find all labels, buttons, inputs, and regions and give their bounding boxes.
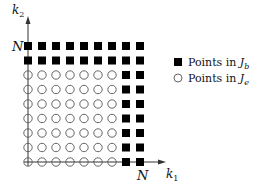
- legend-item-je: Points in Je: [174, 72, 249, 87]
- point-jb: [108, 42, 116, 50]
- point-je: [66, 100, 74, 108]
- point-jb: [24, 42, 32, 50]
- filled-square-icon: [174, 58, 182, 66]
- point-je: [52, 100, 60, 108]
- point-jb: [136, 42, 144, 50]
- point-jb: [94, 57, 102, 65]
- point-je: [94, 129, 102, 137]
- lattice-diagram: N N k2 k1 Points in Jb Points in Je: [0, 0, 264, 188]
- points: [24, 42, 144, 166]
- open-circle-icon: [174, 74, 182, 82]
- point-jb: [122, 100, 130, 108]
- point-je: [52, 143, 60, 151]
- point-je: [94, 100, 102, 108]
- point-je: [52, 85, 60, 93]
- point-jb: [24, 57, 32, 65]
- svg-text:Points in Jb: Points in Jb: [188, 56, 249, 71]
- point-jb: [66, 42, 74, 50]
- point-je: [94, 143, 102, 151]
- point-je: [66, 85, 74, 93]
- point-je: [108, 100, 116, 108]
- point-je: [66, 114, 74, 122]
- point-jb: [122, 144, 130, 152]
- point-je: [80, 143, 88, 151]
- point-jb: [136, 144, 144, 152]
- point-je: [66, 129, 74, 137]
- point-jb: [52, 42, 60, 50]
- x-axis-arrow-icon: [158, 160, 166, 165]
- point-je: [94, 71, 102, 79]
- point-je: [108, 114, 116, 122]
- y-axis-arrow-icon: [26, 16, 31, 24]
- point-jb: [38, 57, 46, 65]
- point-je: [38, 100, 46, 108]
- point-je: [38, 85, 46, 93]
- point-jb: [136, 129, 144, 137]
- point-je: [38, 143, 46, 151]
- y-tick-label-n: N: [11, 39, 24, 54]
- point-je: [80, 129, 88, 137]
- point-jb: [122, 115, 130, 123]
- point-jb: [122, 42, 130, 50]
- svg-text:Points in Je: Points in Je: [188, 72, 249, 87]
- axes: [24, 16, 166, 166]
- x-axis-label: k1: [166, 167, 178, 183]
- point-je: [66, 143, 74, 151]
- point-je: [108, 71, 116, 79]
- point-je: [80, 85, 88, 93]
- point-je: [52, 129, 60, 137]
- point-je: [52, 71, 60, 79]
- point-je: [38, 129, 46, 137]
- point-jb: [66, 57, 74, 65]
- y-axis-label: k2: [12, 3, 24, 19]
- legend: Points in Jb Points in Je: [174, 56, 249, 87]
- point-jb: [80, 57, 88, 65]
- point-jb: [136, 100, 144, 108]
- point-jb: [108, 57, 116, 65]
- point-jb: [94, 42, 102, 50]
- point-je: [94, 85, 102, 93]
- point-jb: [52, 57, 60, 65]
- point-jb: [122, 129, 130, 137]
- point-je: [52, 114, 60, 122]
- point-je: [80, 100, 88, 108]
- point-je: [80, 71, 88, 79]
- point-jb: [38, 42, 46, 50]
- x-tick-label-n: N: [136, 168, 149, 183]
- point-je: [66, 71, 74, 79]
- point-jb: [136, 86, 144, 94]
- legend-text-jb: Points in: [188, 56, 240, 69]
- point-jb: [136, 71, 144, 79]
- point-jb: [136, 115, 144, 123]
- point-jb: [80, 42, 88, 50]
- point-je: [80, 114, 88, 122]
- legend-text-je: Points in: [188, 72, 240, 85]
- point-jb: [122, 86, 130, 94]
- point-je: [108, 143, 116, 151]
- point-je: [108, 85, 116, 93]
- legend-item-jb: Points in Jb: [174, 56, 249, 71]
- point-je: [94, 114, 102, 122]
- point-jb: [136, 57, 144, 65]
- point-je: [38, 71, 46, 79]
- point-jb: [122, 57, 130, 65]
- point-jb: [122, 158, 130, 166]
- point-je: [108, 129, 116, 137]
- point-je: [38, 114, 46, 122]
- point-jb: [136, 158, 144, 166]
- point-jb: [122, 71, 130, 79]
